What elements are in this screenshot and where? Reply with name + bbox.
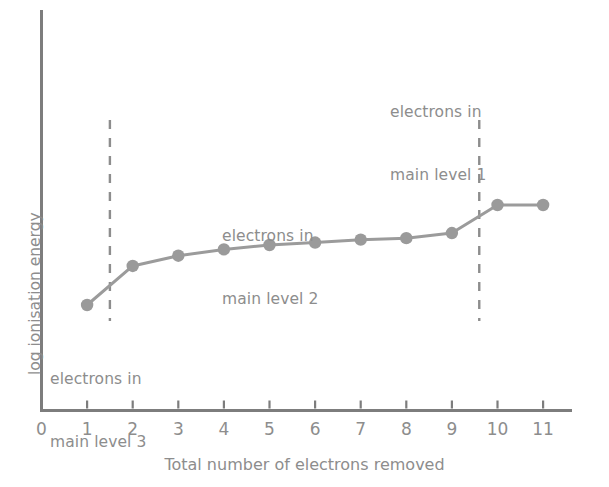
annotation-main-level-1: electrons in main level 1 bbox=[390, 60, 487, 228]
annotation-level-2-line-1: electrons in bbox=[222, 226, 319, 247]
annotation-level-3-line-2: main level 3 bbox=[50, 432, 147, 453]
data-point bbox=[172, 250, 184, 262]
data-point bbox=[127, 260, 139, 272]
ionisation-energy-chart: log ionisation energy Total number of el… bbox=[0, 0, 609, 487]
data-point bbox=[400, 232, 412, 244]
x-axis-tick-label: 4 bbox=[209, 419, 239, 439]
data-point bbox=[537, 199, 549, 211]
annotation-main-level-2: electrons in main level 2 bbox=[222, 184, 319, 352]
x-axis-tick-label: 3 bbox=[163, 419, 193, 439]
data-point bbox=[491, 199, 503, 211]
x-axis-tick-label: 9 bbox=[437, 419, 467, 439]
annotation-level-1-line-2: main level 1 bbox=[390, 165, 487, 186]
data-point bbox=[81, 299, 93, 311]
x-axis-tick-label: 11 bbox=[528, 419, 558, 439]
data-point bbox=[446, 227, 458, 239]
x-axis-tick-label: 10 bbox=[483, 419, 513, 439]
annotation-level-2-line-2: main level 2 bbox=[222, 289, 319, 310]
x-axis-tick-label: 8 bbox=[391, 419, 421, 439]
x-axis-tick-label: 5 bbox=[255, 419, 285, 439]
x-axis-tick-label: 7 bbox=[346, 419, 376, 439]
x-axis-tick-label: 6 bbox=[300, 419, 330, 439]
annotation-level-1-line-1: electrons in bbox=[390, 102, 487, 123]
y-axis-label: log ionisation energy bbox=[26, 35, 44, 375]
annotation-level-3-line-1: electrons in bbox=[50, 369, 147, 390]
data-point bbox=[355, 233, 367, 245]
annotation-main-level-3: electrons in main level 3 bbox=[50, 327, 147, 487]
